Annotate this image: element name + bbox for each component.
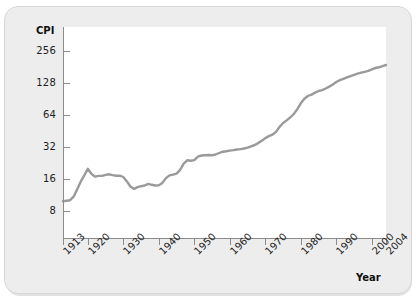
y-tick-label: 8 (22, 205, 56, 216)
x-tick-mark (194, 238, 195, 245)
y-tick-label: 16 (22, 173, 56, 184)
y-tick-mark (63, 211, 70, 212)
y-tick-mark (63, 179, 70, 180)
y-tick-label: 128 (22, 77, 56, 88)
x-axis-title: Year (356, 272, 381, 283)
cpi-series-line (63, 65, 386, 201)
y-tick-mark (63, 115, 70, 116)
x-tick-mark (159, 238, 160, 245)
y-tick-mark (63, 83, 70, 84)
x-tick-mark (301, 238, 302, 245)
y-axis-title: CPI (36, 25, 54, 36)
x-tick-mark (230, 238, 231, 245)
y-tick-label: 32 (22, 141, 56, 152)
y-tick-mark (63, 147, 70, 148)
y-tick-mark (63, 51, 70, 52)
y-tick-label: 256 (22, 45, 56, 56)
x-tick-mark (265, 238, 266, 245)
y-axis-line (63, 27, 64, 239)
x-tick-mark (63, 238, 64, 245)
x-tick-mark (372, 238, 373, 245)
x-tick-mark (123, 238, 124, 245)
chart-screenshot: CPI Year 8163264128256 19131920193019401… (0, 0, 416, 297)
y-tick-label: 64 (22, 109, 56, 120)
x-tick-mark (88, 238, 89, 245)
x-tick-mark (336, 238, 337, 245)
